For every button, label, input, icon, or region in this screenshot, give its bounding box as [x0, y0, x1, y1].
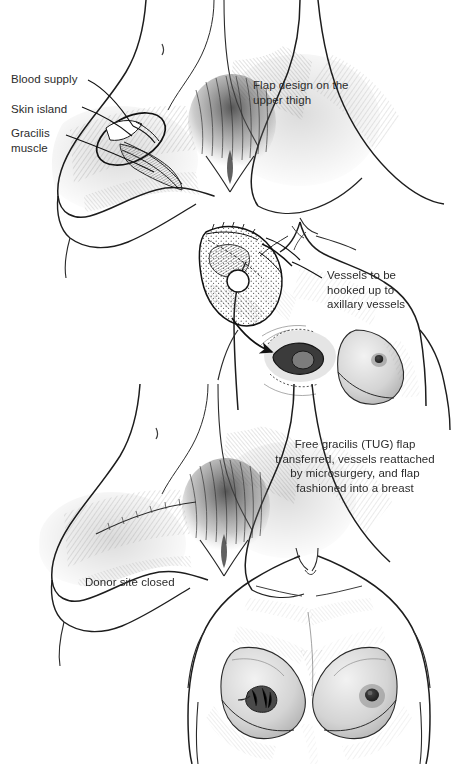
caption-vessels-to-axillary: Vessels to be hooked up to axillary vess…	[327, 268, 405, 312]
illustration-artwork	[0, 0, 459, 764]
caption-free-gracilis-flap: Free gracilis (TUG) flap transferred, ve…	[257, 437, 453, 495]
label-skin-island: Skin island	[11, 102, 67, 117]
label-gracilis-muscle: Gracilis muscle	[11, 126, 50, 155]
caption-flap-design: Flap design on the upper thigh	[253, 78, 349, 107]
label-blood-supply: Blood supply	[11, 72, 77, 87]
medical-illustration-figure: Blood supply Skin island Gracilis muscle…	[0, 0, 459, 764]
caption-donor-site-closed: Donor site closed	[85, 575, 175, 590]
